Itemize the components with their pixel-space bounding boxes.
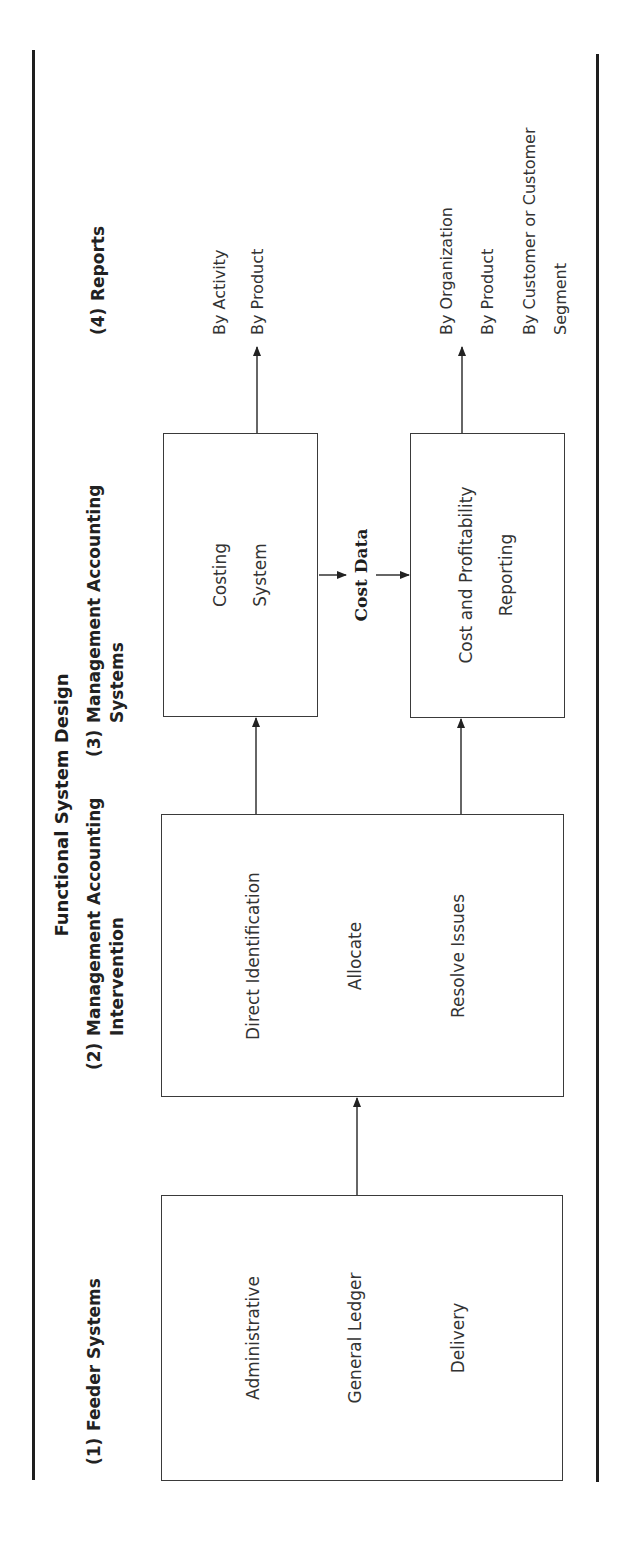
- functional-system-design-diagram: Functional System Design (1)Feeder Syste…: [0, 0, 620, 1543]
- flow-arrows: [0, 0, 620, 1543]
